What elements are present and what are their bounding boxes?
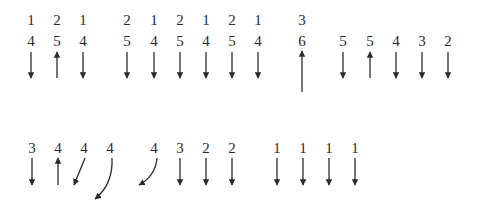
curved-arrow-icon — [139, 158, 157, 185]
curved-long-arrow-icon — [95, 158, 112, 199]
diagonal-arrow-icon — [74, 158, 85, 185]
arrows-layer — [0, 0, 478, 204]
